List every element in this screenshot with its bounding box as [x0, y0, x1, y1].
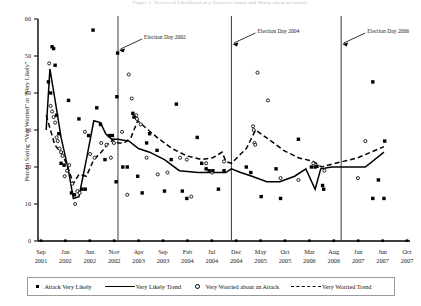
filled-square-icon: [36, 285, 39, 288]
legend-label: Very Likely Trend: [136, 283, 181, 290]
data-point-attack-very-likely: [103, 158, 106, 161]
data-point-very-worried: [83, 130, 86, 133]
data-point-very-worried: [109, 156, 112, 159]
y-tick-label: 20: [25, 163, 31, 170]
data-point-attack-very-likely: [297, 138, 300, 141]
data-point-very-worried: [266, 99, 269, 102]
data-point-attack-very-likely: [114, 180, 117, 183]
legend-item-very-likely-trend: Very Likely Trend: [105, 283, 181, 290]
data-point-very-worried: [185, 158, 188, 161]
y-tick-label: 30: [25, 126, 31, 133]
data-point-very-worried: [56, 140, 59, 143]
data-point-very-worried: [156, 173, 159, 176]
data-point-attack-very-likely: [155, 149, 158, 152]
legend-label: Very Worried Trend: [322, 283, 371, 290]
data-point-attack-very-likely: [196, 136, 199, 139]
data-point-very-worried: [112, 141, 115, 144]
data-point-very-worried: [130, 97, 133, 100]
data-point-attack-very-likely: [382, 197, 385, 200]
data-point-very-worried: [251, 125, 254, 128]
election-day-rules: [118, 16, 341, 241]
data-point-very-worried: [51, 110, 54, 113]
data-point-attack-very-likely: [67, 99, 70, 102]
data-point-attack-very-likely: [140, 191, 143, 194]
axis-lines: [38, 19, 410, 241]
data-point-attack-very-likely: [217, 188, 220, 191]
legend-label: Attack Very Likely: [44, 283, 91, 290]
data-point-attack-very-likely: [136, 175, 139, 178]
data-point-very-worried: [205, 162, 208, 165]
data-point-attack-very-likely: [59, 162, 62, 165]
data-point-attack-very-likely: [181, 189, 184, 192]
data-point-attack-very-likely: [279, 197, 282, 200]
data-point-very-worried: [145, 156, 148, 159]
data-point-attack-very-likely: [169, 158, 172, 161]
y-tick-label: 40: [25, 89, 31, 96]
figure-container: Figure 1. Perceived Likelihood of a Terr…: [0, 0, 421, 306]
data-point-attack-very-likely: [77, 117, 80, 120]
data-point-very-worried: [126, 193, 129, 196]
data-point-attack-very-likely: [185, 197, 188, 200]
data-point-very-worried: [55, 136, 58, 139]
data-point-very-worried: [356, 177, 359, 180]
data-point-very-worried: [58, 147, 61, 150]
data-point-very-worried: [222, 160, 225, 163]
data-point-attack-very-likely: [163, 189, 166, 192]
data-point-attack-very-likely: [249, 171, 252, 174]
very-worried-points: [48, 62, 367, 206]
data-point-very-worried: [78, 191, 81, 194]
data-point-attack-very-likely: [274, 167, 277, 170]
data-point-attack-very-likely: [377, 178, 380, 181]
data-point-very-worried: [179, 156, 182, 159]
data-point-attack-very-likely: [126, 165, 129, 168]
data-point-attack-very-likely: [111, 134, 114, 137]
legend-item-attack-very-likely: Attack Very Likely: [36, 283, 92, 290]
data-point-very-worried: [61, 154, 64, 157]
very-worried-trend-path: [46, 115, 384, 183]
data-point-attack-very-likely: [315, 165, 318, 168]
data-point-very-worried: [48, 62, 51, 65]
annotation-label: Election Day 2006: [367, 28, 409, 34]
very-likely-trend-path: [46, 69, 384, 199]
y-tick-label: 50: [25, 52, 31, 59]
data-point-very-worried: [63, 175, 66, 178]
x-tick-label: Oct2007: [392, 248, 421, 265]
solid-line-icon: [105, 286, 135, 287]
data-point-very-worried: [49, 104, 52, 107]
y-axis-ticks: 0102030405060: [25, 15, 38, 244]
data-point-very-worried: [364, 140, 367, 143]
data-point-very-worried: [312, 162, 315, 165]
data-point-attack-very-likely: [207, 169, 210, 172]
data-point-attack-very-likely: [200, 162, 203, 165]
data-point-attack-very-likely: [222, 169, 225, 172]
data-point-very-worried: [166, 171, 169, 174]
data-point-attack-very-likely: [383, 139, 386, 142]
data-point-attack-very-likely: [84, 188, 87, 191]
data-point-very-worried: [71, 182, 74, 185]
data-point-attack-very-likely: [99, 123, 102, 126]
annotation-arrow: [344, 33, 366, 43]
data-point-attack-very-likely: [57, 132, 60, 135]
attack-very-likely-points: [47, 28, 387, 200]
data-point-attack-very-likely: [115, 95, 118, 98]
data-point-attack-very-likely: [371, 197, 374, 200]
data-point-attack-very-likely: [62, 163, 65, 166]
data-point-attack-very-likely: [116, 51, 119, 54]
legend: Attack Very Likely Very Likely Trend Ver…: [27, 277, 395, 296]
data-point-very-worried: [279, 177, 282, 180]
data-point-very-worried: [74, 202, 77, 205]
data-point-attack-very-likely: [175, 102, 178, 105]
data-point-very-worried: [105, 143, 108, 146]
data-point-very-worried: [252, 128, 255, 131]
data-point-very-worried: [100, 141, 103, 144]
data-point-attack-very-likely: [47, 80, 50, 83]
y-tick-label: 10: [25, 200, 31, 207]
data-point-very-worried: [93, 156, 96, 159]
data-point-very-worried: [121, 130, 124, 133]
open-circle-icon: [195, 284, 200, 289]
very-likely-trend-line: [46, 69, 384, 199]
data-point-attack-very-likely: [95, 106, 98, 109]
very-worried-trend-line: [46, 115, 384, 183]
legend-label: Very Worried about an Attack: [205, 283, 279, 290]
data-point-attack-very-likely: [132, 115, 135, 118]
